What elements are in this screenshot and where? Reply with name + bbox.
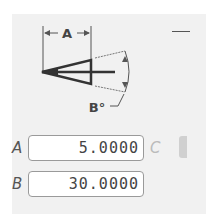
field-row-a: A 5.0000 C: [12, 135, 160, 161]
input-b[interactable]: 30.0000: [28, 171, 144, 197]
partial-input-c[interactable]: [179, 136, 187, 158]
input-a[interactable]: 5.0000: [28, 135, 144, 161]
field-label-b: B: [12, 175, 28, 193]
field-row-b: B 30.0000: [12, 171, 144, 197]
dimension-a-label: A: [62, 26, 72, 41]
dimension-b-label: B°: [89, 100, 105, 115]
divider-dash: [172, 31, 190, 32]
field-label-a: A: [12, 139, 28, 157]
cone-angle-diagram: A B°: [0, 0, 206, 120]
field-label-c: C: [150, 139, 160, 157]
